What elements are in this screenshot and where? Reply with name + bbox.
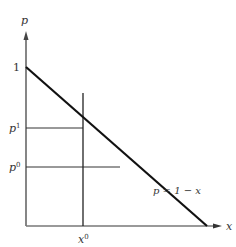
price-quantity-diagram: p x 1 p1 p0 x0 p = 1 − x	[0, 0, 236, 247]
demand-line	[26, 67, 207, 226]
tick-label-one: 1	[13, 61, 20, 74]
x-axis-arrow-icon	[213, 224, 222, 229]
tick-label-x0: x0	[78, 233, 89, 246]
y-axis-label: p	[21, 14, 28, 27]
demand-line-label: p = 1 − x	[153, 185, 201, 196]
tick-label-p1: p1	[9, 122, 21, 135]
tick-label-p0: p0	[9, 161, 21, 174]
x-axis-label: x	[226, 220, 233, 233]
y-axis-arrow-icon	[24, 31, 29, 40]
